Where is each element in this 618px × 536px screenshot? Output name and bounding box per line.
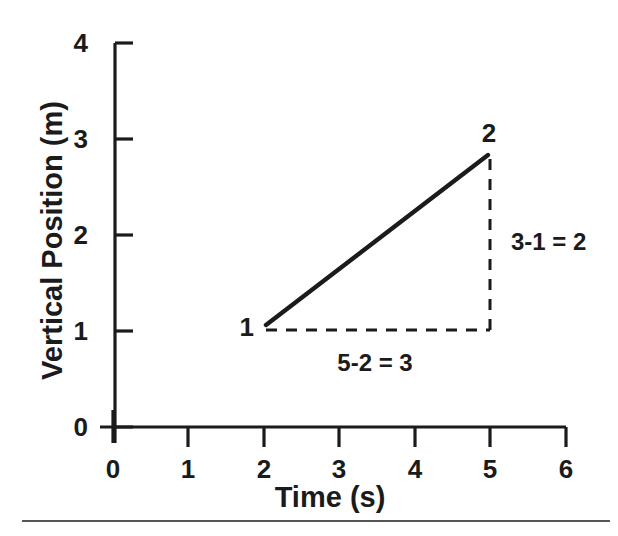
y-tick-label-1: 1 (74, 318, 88, 344)
y-tick-label-3: 3 (74, 126, 88, 152)
x-axis-title: Time (s) (275, 483, 386, 512)
chart-figure: 4 3 2 1 0 0 1 2 3 4 5 6 Vertical Positio… (0, 0, 618, 536)
x-tick-label-3: 3 (332, 456, 346, 482)
point-1-label: 1 (240, 314, 254, 340)
x-tick-label-2: 2 (257, 456, 271, 482)
x-tick-label-5: 5 (483, 456, 497, 482)
rise-annotation: 3-1 = 2 (511, 230, 586, 254)
y-tick-label-4: 4 (74, 30, 88, 56)
y-tick-label-2: 2 (74, 222, 88, 248)
x-tick-label-4: 4 (408, 456, 422, 482)
position-data-line (266, 155, 488, 325)
y-tick-label-0: 0 (74, 414, 88, 440)
plot-area (0, 0, 618, 536)
point-2-label: 2 (482, 120, 496, 146)
run-annotation: 5-2 = 3 (337, 351, 412, 375)
x-tick-label-0: 0 (106, 456, 120, 482)
x-tick-label-6: 6 (559, 456, 573, 482)
x-tick-label-1: 1 (181, 456, 195, 482)
